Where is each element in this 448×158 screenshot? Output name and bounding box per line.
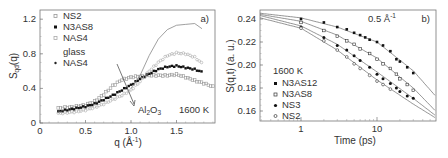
legend-glass: glass	[63, 46, 85, 57]
y-tick-0.8: 0.8	[23, 48, 36, 59]
temperature-annotation-a: 1600 K	[179, 104, 210, 115]
marker-ns2-icon	[54, 15, 57, 18]
marker-ns3-icon	[274, 104, 277, 107]
y-tick-0.18: 0.18	[238, 82, 257, 93]
y-tick-1.2: 1.2	[23, 13, 36, 24]
marker-n3as12-icon	[274, 82, 277, 85]
marker-ns2-b-icon	[274, 115, 277, 118]
y-tick-0.16: 0.16	[238, 105, 257, 116]
legend-ns2: NS2	[63, 10, 81, 21]
legend-nas4: NAS4	[63, 32, 88, 43]
legend-title-b: 1600 K	[273, 65, 304, 76]
legend-b: 1600 K N3AS12 N3AS8 NS3 NS2	[273, 65, 317, 121]
marker-glass-nas4-icon	[54, 62, 56, 64]
panel-b: 0.24 0.22 0.20 0.18 0.16 1 10 Time (ps) …	[225, 10, 436, 146]
figure: 0 0.4 0.8 1.2 0 0.5 1.0 1.5 q (Å-1) Sqd(…	[0, 0, 448, 158]
y-tick-0.4: 0.4	[23, 82, 36, 93]
x-tick-1.5: 1.5	[170, 125, 183, 136]
x-tick-0.5: 0.5	[79, 125, 92, 136]
x-tick-10: 10	[372, 123, 383, 134]
q-annotation: 0.5 Å-1	[368, 12, 396, 24]
panel-tag-a: a)	[201, 13, 209, 24]
legend-glass-nas4: NAS4	[63, 57, 88, 68]
x-axis-label-a: q (Å-1)	[114, 136, 141, 148]
marker-n3as8-icon	[54, 26, 57, 29]
y-tick-0.24: 0.24	[238, 13, 257, 24]
panel-tag-b: b)	[422, 13, 430, 24]
marker-nas4-icon	[54, 37, 57, 40]
marker-n3as8-b-icon	[274, 93, 277, 96]
al2o3-annotation: Al2O3	[138, 104, 161, 116]
legend-ns2-b: NS2	[282, 110, 300, 121]
legend-ns3: NS3	[282, 99, 300, 110]
x-tick-0: 0	[37, 125, 42, 136]
x-tick-1.0: 1.0	[124, 125, 137, 136]
panel-a: 0 0.4 0.8 1.2 0 0.5 1.0 1.5 q (Å-1) Sqd(…	[8, 10, 215, 148]
legend-a: NS2 N3AS8 NAS4 glass NAS4	[54, 10, 93, 68]
legend-n3as8: N3AS8	[63, 21, 93, 32]
y-tick-0.22: 0.22	[238, 36, 257, 47]
legend-n3as12: N3AS12	[282, 77, 317, 88]
x-axis-label-b: Time (ps)	[334, 135, 376, 146]
y-axis-label-b: S(q,t) (a. u.)	[225, 39, 236, 92]
x-tick-1: 1	[298, 123, 303, 134]
y-tick-0.20: 0.20	[238, 59, 257, 70]
legend-n3as8-b: N3AS8	[282, 88, 312, 99]
y-axis-label-a: Sqd(q)	[8, 53, 21, 79]
y-tick-0: 0	[31, 117, 36, 128]
